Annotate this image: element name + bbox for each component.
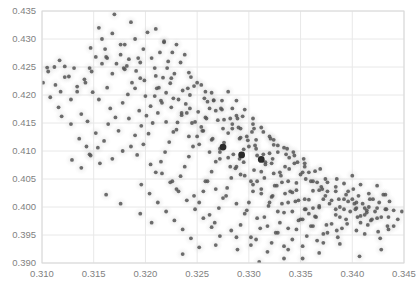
data-point xyxy=(326,189,330,193)
data-point xyxy=(153,66,157,70)
data-point xyxy=(344,217,348,221)
data-point xyxy=(230,127,234,131)
data-point xyxy=(158,51,162,55)
data-point xyxy=(86,119,90,123)
data-point xyxy=(230,107,234,111)
data-point xyxy=(145,114,149,118)
data-point xyxy=(187,71,191,75)
data-point xyxy=(63,65,67,69)
data-point xyxy=(171,130,175,134)
data-point xyxy=(175,128,179,132)
data-point xyxy=(53,65,57,69)
data-point xyxy=(97,26,101,30)
data-point xyxy=(254,238,258,242)
data-point xyxy=(400,210,404,214)
data-point xyxy=(330,198,334,202)
data-point xyxy=(307,170,311,174)
y-axis-tick-label: 0.430 xyxy=(12,33,36,44)
data-point xyxy=(129,20,133,24)
data-point xyxy=(388,200,392,204)
data-point xyxy=(204,179,208,183)
data-point xyxy=(252,168,256,172)
data-point xyxy=(208,213,212,217)
data-point xyxy=(121,101,125,105)
data-point xyxy=(98,161,102,165)
data-point xyxy=(156,201,160,205)
data-point xyxy=(271,157,275,161)
data-point xyxy=(236,117,240,121)
data-point xyxy=(197,245,201,249)
data-point xyxy=(196,110,200,114)
data-point xyxy=(235,202,239,206)
data-point-highlighted xyxy=(238,152,245,159)
data-point xyxy=(164,91,168,95)
data-point xyxy=(144,94,148,98)
data-point xyxy=(303,161,307,165)
y-axis-tick-label: 0.435 xyxy=(12,5,36,16)
data-point xyxy=(387,215,391,219)
data-point xyxy=(353,207,357,211)
data-point xyxy=(290,210,294,214)
data-point xyxy=(106,122,110,126)
data-point xyxy=(195,135,199,139)
data-point xyxy=(151,121,155,125)
data-point xyxy=(321,197,325,201)
data-point xyxy=(210,225,214,229)
data-point xyxy=(136,56,140,60)
data-point xyxy=(254,147,258,151)
data-point xyxy=(282,146,286,150)
y-axis-tick-label: 0.395 xyxy=(12,229,36,240)
y-axis-tick-label: 0.420 xyxy=(12,89,36,100)
data-point xyxy=(359,183,363,187)
data-point xyxy=(387,228,391,232)
data-point xyxy=(272,172,276,176)
data-point xyxy=(229,176,233,180)
data-point xyxy=(286,248,290,252)
data-point xyxy=(282,257,286,261)
data-point xyxy=(110,32,114,36)
data-point xyxy=(72,66,76,70)
data-point xyxy=(272,143,276,147)
data-point xyxy=(302,157,306,161)
data-point xyxy=(218,234,222,238)
data-point xyxy=(177,98,181,102)
data-point xyxy=(115,62,119,66)
data-point xyxy=(243,108,247,112)
x-axis-tick-label: 0.325 xyxy=(185,268,209,279)
data-point xyxy=(126,93,130,97)
data-point xyxy=(367,205,371,209)
data-point xyxy=(334,207,338,211)
data-point xyxy=(224,194,228,198)
data-point xyxy=(219,107,223,111)
x-axis-tick-label: 0.345 xyxy=(392,268,416,279)
data-point xyxy=(350,197,354,201)
data-point xyxy=(192,84,196,88)
data-point xyxy=(60,114,64,118)
data-point xyxy=(366,223,370,227)
data-point xyxy=(113,12,117,16)
data-point xyxy=(355,229,359,233)
data-point xyxy=(235,165,239,169)
data-point xyxy=(63,75,67,79)
data-point xyxy=(100,37,104,41)
data-point xyxy=(255,154,259,158)
data-point xyxy=(311,224,315,228)
y-axis-tick-label: 0.400 xyxy=(12,201,36,212)
data-point xyxy=(114,116,118,120)
data-point xyxy=(241,114,245,118)
data-point xyxy=(167,140,171,144)
data-point xyxy=(84,81,88,85)
data-point xyxy=(262,215,266,219)
x-axis-tick-label: 0.320 xyxy=(134,268,158,279)
data-point xyxy=(287,156,291,160)
data-point xyxy=(292,161,296,165)
x-axis-tick-label: 0.315 xyxy=(82,268,106,279)
data-point xyxy=(307,212,311,216)
data-point xyxy=(179,61,183,65)
data-point xyxy=(75,90,79,94)
data-point xyxy=(301,170,305,174)
data-point xyxy=(228,117,232,121)
data-point xyxy=(146,30,150,34)
y-axis-tick-label: 0.390 xyxy=(12,257,36,268)
data-point xyxy=(239,223,243,227)
